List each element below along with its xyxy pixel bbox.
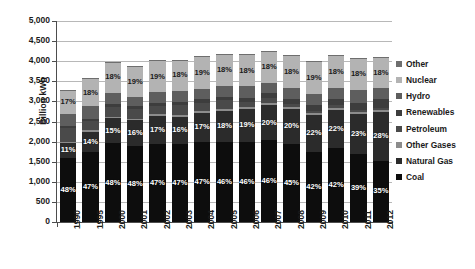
bar-column[interactable]: 46%20%18% xyxy=(261,51,278,222)
bar-segment-other[interactable] xyxy=(194,56,211,57)
bar-segment-nuclear[interactable]: 18% xyxy=(105,62,122,92)
bar-segment-hydro[interactable] xyxy=(127,97,144,106)
bar-segment-nuclear[interactable]: 18% xyxy=(283,56,300,88)
bar-segment-natural-gas[interactable]: 20% xyxy=(283,109,300,144)
bar-column[interactable]: 48%15%18% xyxy=(105,62,122,222)
bar-segment-other-gases[interactable] xyxy=(373,110,390,112)
bar-segment-other[interactable] xyxy=(216,54,233,55)
bar-segment-other[interactable] xyxy=(82,78,99,79)
legend-item-hydro[interactable]: Hydro xyxy=(396,88,475,104)
bar-segment-hydro[interactable] xyxy=(194,89,211,100)
bar-column[interactable]: 35%28%18% xyxy=(373,57,390,222)
bar-segment-natural-gas[interactable]: 16% xyxy=(172,117,189,144)
bar-segment-natural-gas[interactable]: 17% xyxy=(149,116,166,144)
bar-segment-renewables[interactable] xyxy=(328,99,345,106)
bar-segment-petroleum[interactable] xyxy=(127,109,144,119)
bar-segment-natural-gas[interactable]: 23% xyxy=(350,114,367,154)
bar-segment-nuclear[interactable]: 18% xyxy=(350,58,367,90)
bar-segment-natural-gas[interactable]: 11% xyxy=(60,143,77,158)
bar-segment-renewables[interactable] xyxy=(239,98,256,102)
bar-segment-petroleum[interactable] xyxy=(149,106,166,114)
bar-segment-other[interactable] xyxy=(328,55,345,56)
bar-column[interactable]: 47%17%19% xyxy=(149,60,166,222)
bar-segment-other-gases[interactable] xyxy=(239,107,256,109)
bar-column[interactable]: 48%11%17% xyxy=(60,90,77,222)
bar-segment-renewables[interactable] xyxy=(350,103,367,111)
bar-segment-natural-gas[interactable]: 15% xyxy=(105,118,122,143)
legend-item-coal[interactable]: Coal xyxy=(396,169,475,185)
bar-column[interactable]: 47%14%18% xyxy=(82,78,99,222)
bar-segment-hydro[interactable] xyxy=(261,83,278,93)
bar-column[interactable]: 46%19%18% xyxy=(239,54,256,222)
bar-segment-hydro[interactable] xyxy=(216,86,233,97)
bar-column[interactable]: 45%20%18% xyxy=(283,55,300,222)
bar-segment-other[interactable] xyxy=(306,61,323,62)
bar-segment-hydro[interactable] xyxy=(149,92,166,103)
bar-segment-hydro[interactable] xyxy=(105,93,122,104)
bar-segment-other[interactable] xyxy=(172,60,189,61)
bar-segment-renewables[interactable] xyxy=(149,103,166,106)
bar-segment-renewables[interactable] xyxy=(82,119,99,122)
bar-segment-other-gases[interactable] xyxy=(216,109,233,111)
bar-segment-other-gases[interactable] xyxy=(172,115,189,117)
bar-segment-nuclear[interactable]: 18% xyxy=(239,55,256,87)
bar-segment-natural-gas[interactable]: 19% xyxy=(239,109,256,142)
bar-segment-petroleum[interactable] xyxy=(194,103,211,112)
bar-segment-other-gases[interactable] xyxy=(60,142,77,143)
bar-segment-petroleum[interactable] xyxy=(261,98,278,103)
bar-segment-natural-gas[interactable]: 17% xyxy=(194,113,211,142)
bar-segment-other[interactable] xyxy=(261,51,278,52)
bar-segment-other-gases[interactable] xyxy=(328,108,345,110)
bar-segment-nuclear[interactable]: 18% xyxy=(172,60,189,91)
bar-segment-other[interactable] xyxy=(105,62,122,63)
bar-segment-renewables[interactable] xyxy=(127,106,144,109)
bar-segment-petroleum[interactable] xyxy=(239,102,256,107)
bar-segment-hydro[interactable] xyxy=(82,106,99,119)
bar-segment-nuclear[interactable]: 19% xyxy=(194,57,211,89)
bar-segment-other[interactable] xyxy=(60,90,77,91)
bar-segment-other-gases[interactable] xyxy=(194,111,211,113)
bar-segment-hydro[interactable] xyxy=(60,114,77,126)
bar-segment-petroleum[interactable] xyxy=(373,108,390,110)
legend-item-nuclear[interactable]: Nuclear xyxy=(396,72,475,88)
bar-segment-renewables[interactable] xyxy=(283,99,300,104)
bar-segment-natural-gas[interactable]: 14% xyxy=(82,132,99,153)
bar-segment-renewables[interactable] xyxy=(261,93,278,97)
bar-segment-nuclear[interactable]: 18% xyxy=(82,79,99,106)
bar-segment-other-gases[interactable] xyxy=(82,130,99,131)
bar-segment-natural-gas[interactable]: 22% xyxy=(328,110,345,149)
bar-segment-hydro[interactable] xyxy=(328,88,345,98)
bar-segment-other[interactable] xyxy=(149,60,166,61)
bar-segment-natural-gas[interactable]: 22% xyxy=(306,115,323,152)
bar-segment-petroleum[interactable] xyxy=(60,128,77,141)
bar-segment-other-gases[interactable] xyxy=(149,114,166,116)
bar-segment-nuclear[interactable]: 18% xyxy=(373,57,390,88)
bar-segment-renewables[interactable] xyxy=(306,105,323,111)
bar-segment-other[interactable] xyxy=(283,55,300,56)
bar-column[interactable]: 39%23%18% xyxy=(350,58,367,223)
bar-segment-nuclear[interactable]: 19% xyxy=(149,61,166,92)
bar-segment-petroleum[interactable] xyxy=(172,105,189,115)
bar-segment-hydro[interactable] xyxy=(172,91,189,102)
bar-segment-nuclear[interactable]: 17% xyxy=(60,91,77,114)
bar-segment-renewables[interactable] xyxy=(60,126,77,129)
bar-segment-other-gases[interactable] xyxy=(306,113,323,115)
bar-column[interactable]: 47%16%18% xyxy=(172,60,189,222)
bar-segment-petroleum[interactable] xyxy=(306,111,323,113)
legend-item-petroleum[interactable]: Petroleum xyxy=(396,121,475,137)
bar-segment-hydro[interactable] xyxy=(350,90,367,103)
bar-segment-natural-gas[interactable]: 16% xyxy=(127,120,144,145)
bar-segment-nuclear[interactable]: 18% xyxy=(261,51,278,83)
bar-segment-other-gases[interactable] xyxy=(283,107,300,109)
bar-column[interactable]: 47%17%19% xyxy=(194,56,211,222)
bar-segment-petroleum[interactable] xyxy=(105,107,122,117)
bar-segment-hydro[interactable] xyxy=(373,88,390,99)
bar-segment-nuclear[interactable]: 19% xyxy=(306,62,323,94)
bar-segment-nuclear[interactable]: 18% xyxy=(216,55,233,86)
legend-item-natural-gas[interactable]: Natural Gas xyxy=(396,153,475,169)
bar-segment-renewables[interactable] xyxy=(105,104,122,107)
bar-segment-natural-gas[interactable]: 20% xyxy=(261,105,278,141)
bar-segment-other[interactable] xyxy=(239,54,256,55)
bar-segment-nuclear[interactable]: 19% xyxy=(127,66,144,97)
bar-segment-other-gases[interactable] xyxy=(127,119,144,121)
